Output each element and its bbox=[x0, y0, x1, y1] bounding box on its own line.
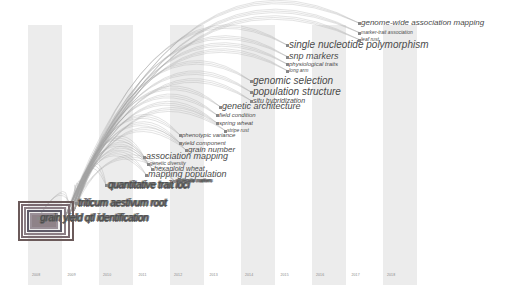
keyword-label[interactable]: genomic selection bbox=[253, 76, 333, 86]
year-label: 2011 bbox=[139, 273, 147, 277]
keyword-node[interactable] bbox=[37, 217, 40, 220]
keyword-node[interactable] bbox=[173, 180, 176, 183]
year-label: 2010 bbox=[103, 273, 111, 277]
keyword-label[interactable]: field condition bbox=[219, 112, 256, 118]
keyword-label[interactable]: spring wheat bbox=[219, 120, 253, 126]
keyword-label[interactable]: snp markers bbox=[289, 52, 339, 61]
keyword-label[interactable]: grain yield qtl identification bbox=[40, 213, 148, 223]
keyword-node[interactable] bbox=[216, 122, 219, 125]
keyword-node[interactable] bbox=[358, 22, 361, 25]
keyword-node[interactable] bbox=[250, 80, 253, 83]
keyword-node[interactable] bbox=[105, 184, 108, 187]
keyword-node[interactable] bbox=[179, 134, 182, 137]
year-label: 2008 bbox=[32, 273, 40, 277]
keyword-node[interactable] bbox=[145, 174, 148, 177]
year-label: 2009 bbox=[68, 273, 76, 277]
keyword-label[interactable]: genetic architecture bbox=[222, 102, 301, 111]
year-label: 2016 bbox=[316, 273, 324, 277]
keyword-label[interactable]: phenotypic variance bbox=[182, 132, 235, 138]
keyword-node[interactable] bbox=[286, 70, 289, 73]
timeline-visualization: genome-wide association mappingmarker-tr… bbox=[0, 0, 514, 296]
year-label: 2018 bbox=[387, 273, 395, 277]
keyword-node[interactable] bbox=[219, 106, 222, 109]
year-label: 2012 bbox=[174, 273, 182, 277]
keyword-node[interactable] bbox=[250, 91, 253, 94]
keyword-label[interactable]: single nucleotide polymorphism bbox=[289, 40, 429, 50]
year-label: 2013 bbox=[210, 273, 218, 277]
year-label: 2014 bbox=[245, 273, 253, 277]
keyword-node[interactable] bbox=[286, 63, 289, 66]
year-label: 2015 bbox=[281, 273, 289, 277]
keyword-node[interactable] bbox=[147, 163, 150, 166]
keyword-label[interactable]: population structure bbox=[253, 87, 341, 97]
keyword-label[interactable]: long arm bbox=[289, 68, 308, 73]
keyword-node[interactable] bbox=[179, 142, 182, 145]
keyword-node[interactable] bbox=[143, 156, 146, 159]
keyword-node[interactable] bbox=[216, 114, 219, 117]
keyword-label[interactable]: molecular markers bbox=[176, 178, 212, 183]
co-occurrence-links bbox=[0, 0, 514, 296]
keyword-node[interactable] bbox=[286, 44, 289, 47]
year-label: 2017 bbox=[352, 273, 360, 277]
keyword-node[interactable] bbox=[286, 56, 289, 59]
keyword-node[interactable] bbox=[358, 32, 361, 35]
keyword-node[interactable] bbox=[75, 202, 78, 205]
keyword-label[interactable]: marker-trait association bbox=[361, 30, 413, 35]
keyword-label[interactable]: genome-wide association mapping bbox=[361, 19, 484, 27]
keyword-label[interactable]: triticum aestivum root bbox=[78, 198, 166, 208]
